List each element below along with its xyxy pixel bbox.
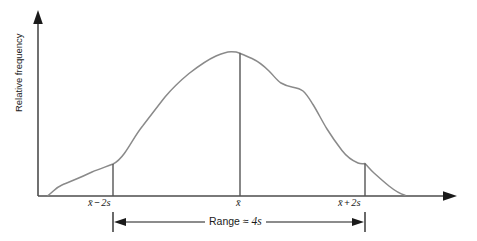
range-arrow-left-icon bbox=[114, 218, 126, 226]
approx-symbol: ≈ bbox=[243, 215, 249, 227]
offset-lower: 2s bbox=[101, 197, 110, 208]
relative-frequency-diagram: Relative frequency x̄−2s x̄ x̄+2s Range … bbox=[0, 0, 477, 241]
tick-label-lower-bound: x̄−2s bbox=[88, 198, 111, 209]
tick-label-mean: x̄ bbox=[236, 198, 241, 209]
mean-symbol-center: x̄ bbox=[236, 197, 241, 208]
mean-symbol-lower: x̄ bbox=[88, 197, 93, 208]
y-axis-arrow-icon bbox=[33, 10, 43, 24]
range-arrow-right-icon bbox=[352, 218, 364, 226]
range-value: 4s bbox=[252, 215, 262, 227]
offset-upper: 2s bbox=[351, 197, 360, 208]
operator-lower: − bbox=[93, 197, 102, 208]
tick-label-upper-bound: x̄+2s bbox=[338, 198, 361, 209]
range-text: Range bbox=[209, 215, 240, 227]
range-annotation-label: Range ≈ 4s bbox=[205, 215, 266, 228]
x-axis-arrow-icon bbox=[443, 191, 457, 201]
y-axis-label: Relative frequency bbox=[14, 17, 24, 129]
operator-upper: + bbox=[343, 197, 352, 208]
mean-symbol-upper: x̄ bbox=[338, 197, 343, 208]
distribution-curve bbox=[48, 52, 405, 196]
